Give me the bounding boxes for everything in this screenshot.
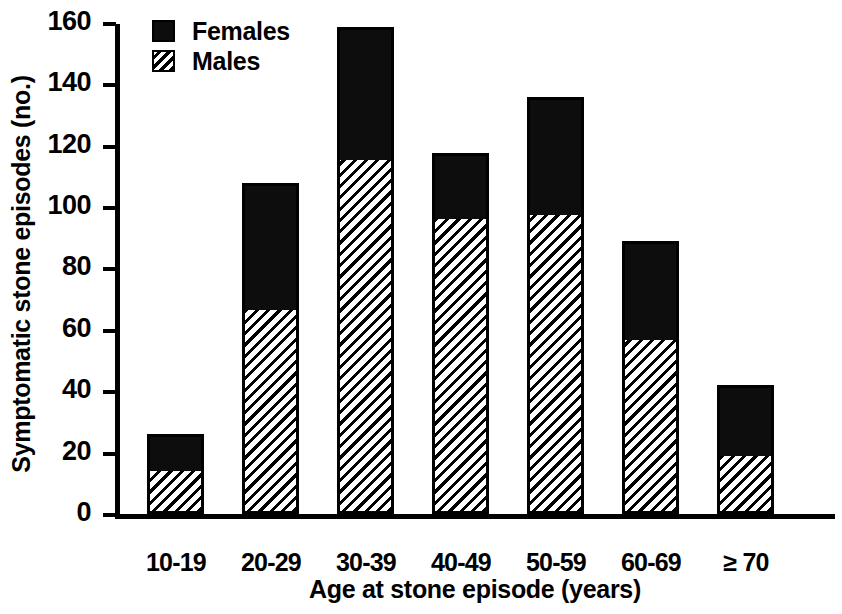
y-tick-label-80: 80 — [0, 253, 91, 280]
bar-segment-males — [625, 340, 676, 511]
bar-segment-males — [150, 471, 201, 511]
legend-item-females: Females — [152, 16, 290, 46]
bar-segment-females — [340, 30, 391, 160]
y-tick-label-100: 100 — [0, 192, 91, 219]
bar-segment-females — [245, 186, 296, 310]
y-tick-label-160: 160 — [0, 8, 91, 35]
y-tick-label-120: 120 — [0, 131, 91, 158]
y-tick-label-40: 40 — [0, 376, 91, 403]
y-tick-160 — [103, 22, 116, 26]
y-tick-40 — [103, 390, 116, 394]
y-tick-80 — [103, 267, 116, 271]
legend-swatch-hatched-icon — [152, 50, 175, 72]
x-tick-label-70-plus: ≥ 70 — [681, 548, 811, 577]
bar-segment-females — [625, 244, 676, 340]
y-tick-120 — [103, 145, 116, 149]
bar-40-49 — [432, 153, 489, 514]
bar-70-plus — [717, 385, 774, 514]
y-tick-label-20: 20 — [0, 438, 91, 465]
bar-20-29 — [242, 183, 299, 514]
x-axis-title: Age at stone episode (years) — [110, 575, 840, 604]
bar-segment-males — [340, 160, 391, 511]
x-axis-line — [115, 514, 835, 519]
bar-segment-males — [245, 310, 296, 511]
y-tick-label-140: 140 — [0, 69, 91, 96]
bar-segment-females — [435, 156, 486, 219]
bar-segment-males — [435, 219, 486, 511]
legend-label-females: Females — [192, 19, 290, 44]
legend-label-males: Males — [192, 49, 260, 74]
y-tick-label-0: 0 — [0, 499, 91, 526]
legend-swatch-solid-icon — [152, 20, 175, 42]
y-tick-60 — [103, 329, 116, 333]
bar-segment-females — [150, 437, 201, 471]
bar-segment-females — [530, 100, 581, 215]
bar-segment-males — [530, 215, 581, 511]
y-tick-label-60: 60 — [0, 315, 91, 342]
y-tick-20 — [103, 452, 116, 456]
legend: Females Males — [152, 16, 290, 76]
plot-area: 160 140 120 100 80 60 40 20 0 — [115, 20, 835, 518]
y-tick-100 — [103, 206, 116, 210]
bar-10-19 — [147, 434, 204, 514]
legend-item-males: Males — [152, 46, 290, 76]
bar-segment-males — [720, 456, 771, 511]
y-tick-140 — [103, 83, 116, 87]
bar-50-59 — [527, 97, 584, 514]
y-tick-0 — [103, 513, 116, 517]
bar-30-39 — [337, 27, 394, 514]
bar-segment-females — [720, 388, 771, 456]
chart-figure: Symptomatic stone episodes (no.) 160 140… — [0, 0, 842, 614]
bar-60-69 — [622, 241, 679, 514]
